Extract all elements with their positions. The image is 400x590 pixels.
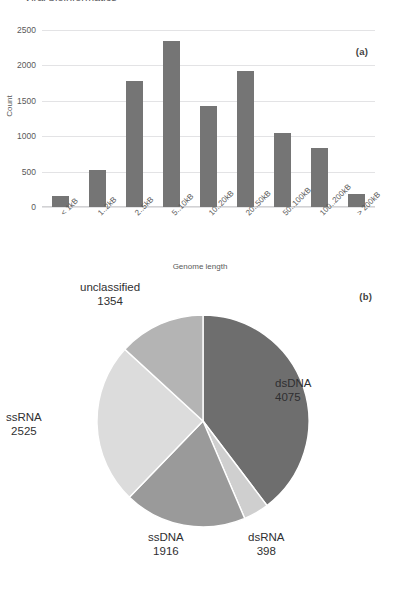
pie-label-dsrna: dsRNA 398 [248,530,284,558]
bar-group: 10..20kB [190,30,227,207]
pie-label-dsdna: dsDNA 4075 [275,376,311,404]
panel-b-pie-chart: (b) unclassified 1354 dsDNA 4075 ssRNA 2… [0,292,400,590]
bar-group: < 1kB [42,30,79,207]
y-axis-tick-label: 0 [31,202,36,212]
y-axis-tick-label: 1500 [17,96,36,106]
pie-label-ssrna-name: ssRNA [6,411,42,423]
pie-label-ssdna: ssDNA 1916 [148,530,184,558]
cropped-heading: Viral bioinformatics [0,0,400,10]
y-axis-tick-label: 500 [22,167,36,177]
y-axis-tick-label: 2000 [17,60,36,70]
bar-group: 50..100kB [264,30,301,207]
bar-group: 100..200kB [301,30,338,207]
bar-group: 1..2kB [79,30,116,207]
pie-label-dsrna-value: 398 [248,544,284,558]
panel-a-bar-chart: (a) Count 05001000150020002500 < 1kB1..2… [0,14,400,280]
pie-label-unclassified-name: unclassified [80,281,140,293]
y-axis-tick-label: 2500 [17,25,36,35]
pie-label-ssdna-value: 1916 [148,544,184,558]
figure-root: Viral bioinformatics (a) Count 050010001… [0,0,400,590]
pie-label-dsdna-value: 4075 [275,390,311,404]
bar [237,71,254,207]
bar [163,41,180,207]
pie-svg [96,314,310,528]
bar-group: 5..10kB [153,30,190,207]
heading-text: Viral bioinformatics [24,0,117,3]
panel-b-label: (b) [359,291,372,302]
y-axis-title: Count [5,95,14,116]
bar [274,133,291,207]
bar-plot-area: 05001000150020002500 < 1kB1..2kB2..5kB5.… [42,30,375,207]
pie-label-dsrna-name: dsRNA [248,531,284,543]
bar-series: < 1kB1..2kB2..5kB5..10kB10..20kB20..50kB… [42,30,375,207]
bar [200,106,217,207]
bar [126,81,143,207]
bar-group: > 200kB [338,30,375,207]
bar [89,170,106,207]
x-axis-title: Genome length [0,262,400,271]
pie-label-ssdna-name: ssDNA [148,531,184,543]
bar-group: 20..50kB [227,30,264,207]
pie-label-ssrna: ssRNA 2525 [6,410,42,438]
y-axis-tick-label: 1000 [17,131,36,141]
bar [311,148,328,207]
pie-label-unclassified: unclassified 1354 [80,280,140,308]
pie-wrapper [96,314,310,528]
bar-group: 2..5kB [116,30,153,207]
pie-label-unclassified-value: 1354 [80,294,140,308]
pie-label-dsdna-name: dsDNA [275,377,311,389]
pie-label-ssrna-value: 2525 [6,424,42,438]
